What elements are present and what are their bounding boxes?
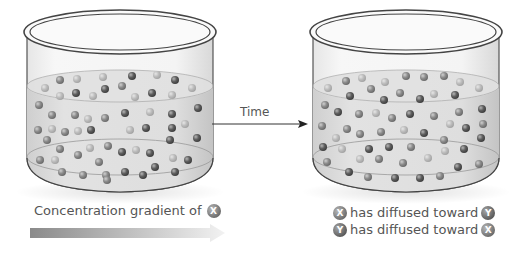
caption-text: Concentration gradient of [34, 203, 202, 218]
concentration-gradient-arrow [30, 224, 225, 242]
time-arrow [212, 120, 308, 128]
caption-text: has diffused toward [350, 205, 478, 220]
time-label: Time [240, 105, 269, 119]
diffusion-caption-x: X has diffused toward Y [330, 205, 498, 220]
molecule-y-icon: Y [481, 206, 495, 220]
beaker-after [301, 10, 511, 204]
beaker-before [15, 10, 225, 204]
molecule-x-icon: X [207, 204, 221, 218]
diffusion-caption-y: Y has diffused toward X [330, 222, 498, 237]
caption-text: has diffused toward [350, 222, 478, 237]
molecule-x-icon: X [333, 206, 347, 220]
concentration-gradient-caption: Concentration gradient of X [34, 203, 224, 218]
molecule-x-icon: X [481, 223, 495, 237]
molecule-y-icon: Y [333, 223, 347, 237]
